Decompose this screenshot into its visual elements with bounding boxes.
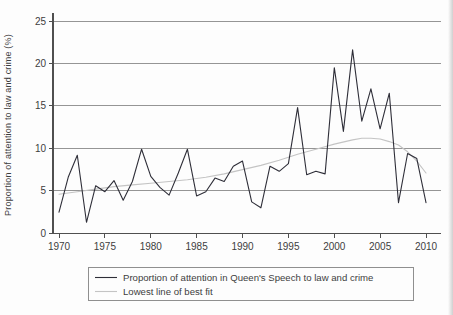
y-tick-label: 15 [35, 100, 47, 111]
y-tick-label: 0 [40, 228, 46, 239]
line-chart: 0510152025197019751980198519901995200020… [0, 0, 453, 315]
x-tick-label: 1995 [277, 241, 300, 252]
lowess-fit-line [59, 138, 426, 194]
y-tick-label: 10 [35, 143, 47, 154]
figure: 0510152025197019751980198519901995200020… [0, 0, 453, 315]
y-tick-label: 20 [35, 58, 47, 69]
legend-series-label: Proportion of attention in Queen's Speec… [123, 272, 373, 283]
x-tick-label: 2000 [323, 241, 346, 252]
axes [53, 13, 441, 233]
y-tick-label: 5 [40, 185, 46, 196]
legend: Proportion of attention in Queen's Speec… [89, 268, 414, 301]
x-tick-label: 2005 [369, 241, 392, 252]
y-axis-title: Proportion of attention to law and crime… [3, 34, 13, 216]
x-tick-label: 1970 [48, 241, 71, 252]
y-tick-label: 25 [35, 16, 47, 27]
x-tick-label: 2010 [415, 241, 438, 252]
gridlines [53, 21, 441, 233]
legend-lowess-label: Lowest line of best fit [123, 286, 213, 297]
queens-speech-series-line [59, 50, 426, 222]
axis-ticks [49, 21, 427, 238]
scan-edge-shadow [448, 0, 453, 315]
tick-labels: 0510152025197019751980198519901995200020… [35, 16, 438, 253]
x-tick-label: 1990 [231, 241, 254, 252]
x-tick-label: 1975 [94, 241, 117, 252]
x-tick-label: 1980 [140, 241, 163, 252]
x-tick-label: 1985 [186, 241, 209, 252]
